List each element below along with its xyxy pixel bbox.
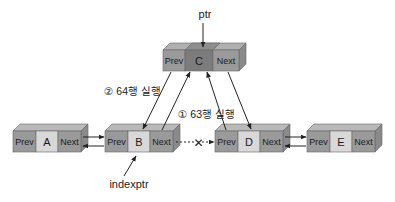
linked-list-diagram: Prev A Next Prev B Next Prev D Next Prev… [0,0,395,202]
node-b-prev-label: Prev [107,137,126,147]
indexptr-arrow [124,156,136,176]
broken-link-b-d: ✕ [176,136,214,150]
node-e: Prev E Next [307,124,382,152]
node-b-next-label: Next [152,137,171,147]
node-c-value: C [195,55,203,67]
step1-label: ① 63행 실행 [178,108,235,120]
node-a-value: A [43,136,51,148]
node-c-prev-label: Prev [165,56,184,66]
node-b-value: B [135,136,142,148]
node-d-next-label: Next [262,137,281,147]
node-c-next-label: Next [217,56,236,66]
node-b: Prev B Next [105,124,180,152]
node-d: Prev D Next [215,124,290,152]
indexptr-label: indexptr [109,178,148,190]
node-d-value: D [245,136,253,148]
node-c: Prev C Next [163,43,246,71]
arrow-d-prev-to-c [207,72,226,130]
node-a-prev-label: Prev [15,137,34,147]
step2-label: ② 64행 실행 [104,85,161,97]
node-a-next-label: Next [60,137,79,147]
node-e-value: E [337,136,344,148]
ptr-label: ptr [199,8,212,20]
node-a: Prev A Next [13,124,88,152]
node-e-prev-label: Prev [309,137,328,147]
broken-link-x-icon: ✕ [193,136,203,150]
arrow-c-next-to-d [228,72,251,129]
node-e-next-label: Next [354,137,373,147]
node-d-prev-label: Prev [217,137,236,147]
